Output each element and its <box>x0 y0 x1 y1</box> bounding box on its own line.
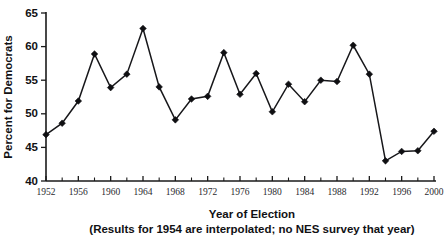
y-tick-label: 50 <box>25 107 38 119</box>
y-tick-label: 60 <box>25 40 38 52</box>
y-axis-title: Percent for Democrats <box>2 35 14 158</box>
x-axis-note: (Results for 1954 are interpolated; no N… <box>89 223 414 235</box>
y-tick-label: 65 <box>25 7 38 19</box>
x-tick-label: 1996 <box>392 187 411 197</box>
x-tick-label: 1988 <box>328 187 347 197</box>
data-point-marker <box>156 84 163 91</box>
chart-container: 404550556065 195219561960196419681972197… <box>0 0 448 238</box>
y-tick-label: 40 <box>25 175 38 187</box>
x-tick-label: 1960 <box>101 187 120 197</box>
data-point-marker <box>204 93 211 100</box>
x-tick-label: 1984 <box>295 187 314 197</box>
y-tick-label: 55 <box>25 74 38 86</box>
data-point-marker <box>382 158 389 165</box>
x-axis-title: Year of Election <box>209 208 295 220</box>
y-tick-label: 45 <box>25 141 38 153</box>
data-point-markers <box>43 25 438 164</box>
data-point-marker <box>221 49 228 56</box>
x-tick-label: 1976 <box>231 187 250 197</box>
data-point-marker <box>350 42 357 49</box>
data-point-marker <box>91 51 98 58</box>
x-tick-label: 1968 <box>166 187 185 197</box>
y-axis-tick-labels: 404550556065 <box>25 7 38 187</box>
x-tick-label: 1964 <box>134 187 153 197</box>
x-tick-label: 1980 <box>263 187 282 197</box>
data-point-marker <box>269 108 276 115</box>
x-tick-label: 2000 <box>425 187 444 197</box>
x-tick-label: 1952 <box>37 187 56 197</box>
x-tick-label: 1992 <box>360 187 379 197</box>
x-tick-label: 1972 <box>198 187 217 197</box>
x-tick-label: 1956 <box>69 187 88 197</box>
data-point-marker <box>398 148 405 155</box>
x-axis-tick-labels: 1952195619601964196819721976198019841988… <box>37 187 444 197</box>
data-point-marker <box>334 78 341 85</box>
data-point-marker <box>140 25 147 32</box>
data-point-marker <box>366 71 373 78</box>
line-chart: 404550556065 195219561960196419681972197… <box>0 0 448 238</box>
